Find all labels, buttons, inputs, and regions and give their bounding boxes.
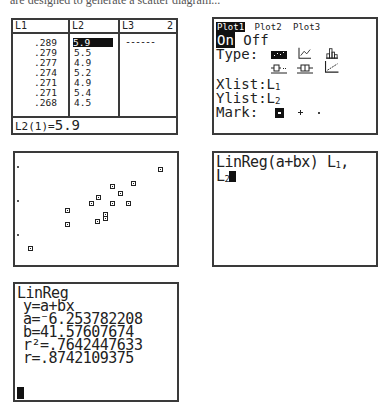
y-axis-tick xyxy=(17,166,19,168)
list2-name: L xyxy=(216,167,225,185)
l1-cell[interactable]: .277 xyxy=(34,58,57,67)
data-point xyxy=(89,201,94,206)
home-screen-results: LinReg y=a+bx a=⁻6.253782208 b=41.576076… xyxy=(13,282,179,402)
modboxplot-icon[interactable] xyxy=(271,62,287,74)
l3-empty-placeholder[interactable]: ------ xyxy=(125,36,155,47)
text-cursor[interactable] xyxy=(229,171,236,182)
data-point xyxy=(110,184,115,189)
footer-divider xyxy=(13,116,176,118)
edit-line-label: L2(1)= xyxy=(15,120,55,133)
l1-cell[interactable]: .279 xyxy=(34,48,57,57)
data-point xyxy=(110,201,115,206)
edit-line-value: 5.9 xyxy=(55,117,80,133)
data-point xyxy=(158,167,163,172)
mark-label: Mark: xyxy=(216,104,258,120)
header-l1[interactable]: L1 xyxy=(15,20,27,32)
home-screen-command: LinReg(a+bx) L1, L2 xyxy=(212,151,378,267)
plot-area xyxy=(15,153,177,265)
stat-plot-screen: Plot1 Plot2 Plot3 On Off Type: Xlist:L1 xyxy=(212,17,378,135)
command-line-2: L2 xyxy=(216,169,236,186)
scatter-plot-screen xyxy=(13,151,179,267)
column-divider xyxy=(118,20,120,118)
box-mark-icon[interactable] xyxy=(275,108,284,118)
header-l3[interactable]: L3 xyxy=(122,20,134,32)
list-editor-screen: L1 L2 L3 2 .289 .279 .277 .274 .271 .271… xyxy=(11,18,178,135)
text-cursor[interactable] xyxy=(17,383,24,402)
ylist-value[interactable]: L2 xyxy=(267,90,281,106)
data-point xyxy=(65,222,70,227)
data-point xyxy=(28,246,33,251)
column-divider xyxy=(68,20,70,118)
y-axis-tick xyxy=(17,234,19,236)
l2-cell[interactable]: 5.4 xyxy=(74,88,91,97)
data-point xyxy=(95,219,100,224)
dot-mark-icon[interactable] xyxy=(318,112,320,114)
l2-cell-selected[interactable]: 5.9 xyxy=(73,38,113,47)
tab-plot1[interactable]: Plot1 xyxy=(216,22,245,32)
l1-cell[interactable]: .268 xyxy=(34,98,57,107)
data-point xyxy=(103,216,108,221)
l1-cell[interactable]: .274 xyxy=(34,68,57,77)
plus-mark-icon[interactable] xyxy=(297,109,304,116)
l2-cell[interactable]: 4.9 xyxy=(74,58,91,67)
data-point xyxy=(96,195,101,200)
l2-cell[interactable]: 4.5 xyxy=(74,98,91,107)
l2-cell[interactable]: 5.5 xyxy=(74,48,91,57)
l2-cell[interactable]: 5.2 xyxy=(74,68,91,77)
command-separator: , xyxy=(340,153,349,171)
header-l2[interactable]: L2 xyxy=(72,20,84,32)
scatter-icon[interactable] xyxy=(271,49,287,61)
ylist-list-name: L xyxy=(267,90,275,106)
tab-plot3[interactable]: Plot3 xyxy=(293,22,320,32)
l2-cell[interactable]: 4.9 xyxy=(74,78,91,87)
xyline-icon[interactable] xyxy=(297,47,313,59)
ylist-subscript: 2 xyxy=(275,96,280,106)
boxplot-icon[interactable] xyxy=(297,62,313,74)
l1-cell[interactable]: .289 xyxy=(34,38,57,47)
edit-line[interactable]: L2(1)=5.9 xyxy=(15,119,80,133)
l1-cell[interactable]: .271 xyxy=(34,88,57,97)
column-number: 2 xyxy=(167,20,173,32)
histogram-icon[interactable] xyxy=(324,47,340,59)
data-point xyxy=(118,191,123,196)
data-point xyxy=(65,208,70,213)
y-axis-tick xyxy=(17,200,19,202)
type-label: Type: xyxy=(216,46,258,62)
l1-cell[interactable]: .271 xyxy=(34,78,57,87)
result-r: r=.8742109375 xyxy=(23,351,134,365)
list-header xyxy=(13,20,176,34)
data-point xyxy=(131,181,136,186)
data-point xyxy=(126,201,131,206)
page-caption: are designed to generate a scatter diagr… xyxy=(10,0,220,8)
normprob-icon[interactable] xyxy=(324,61,340,73)
tab-plot2[interactable]: Plot2 xyxy=(255,22,282,32)
